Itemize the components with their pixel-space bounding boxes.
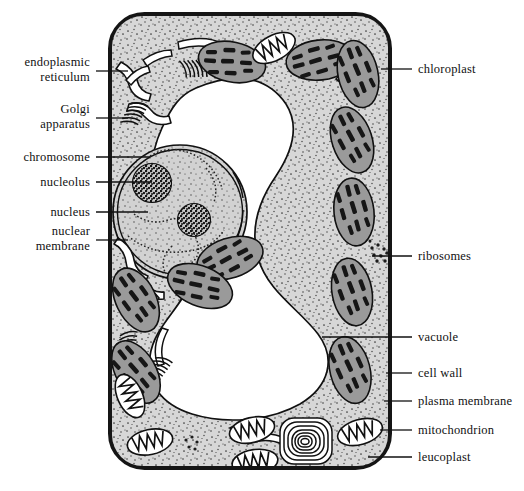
label-nucleus: nucleus: [4, 205, 90, 219]
label-nuclear-membrane-line1: nuclear: [4, 224, 90, 239]
label-golgi-apparatus-line1: Golgi: [4, 102, 90, 117]
label-leucoplast: leucoplast: [418, 450, 471, 464]
label-endoplasmic-reticulum-line1: endoplasmic: [4, 55, 90, 70]
label-chromosome: chromosome: [4, 150, 90, 164]
leucoplast: [280, 418, 332, 464]
label-cell-wall: cell wall: [418, 366, 463, 380]
label-nuclear-membrane: nuclear membrane: [4, 224, 90, 254]
label-ribosomes: ribosomes: [418, 249, 471, 263]
label-golgi-apparatus: Golgi apparatus: [4, 102, 90, 132]
label-mitochondrion: mitochondrion: [418, 423, 494, 437]
label-golgi-apparatus-line2: apparatus: [4, 117, 90, 132]
plant-cell-diagram: endoplasmic reticulum Golgi apparatus ch…: [0, 0, 524, 491]
label-plasma-membrane: plasma membrane: [418, 394, 512, 408]
label-endoplasmic-reticulum-line2: reticulum: [4, 70, 90, 85]
label-vacuole: vacuole: [418, 330, 458, 344]
label-nucleolus: nucleolus: [4, 175, 90, 189]
label-endoplasmic-reticulum: endoplasmic reticulum: [4, 55, 90, 85]
nucleolus: [133, 164, 172, 203]
label-chloroplast: chloroplast: [418, 62, 476, 76]
label-nuclear-membrane-line2: membrane: [4, 239, 90, 254]
